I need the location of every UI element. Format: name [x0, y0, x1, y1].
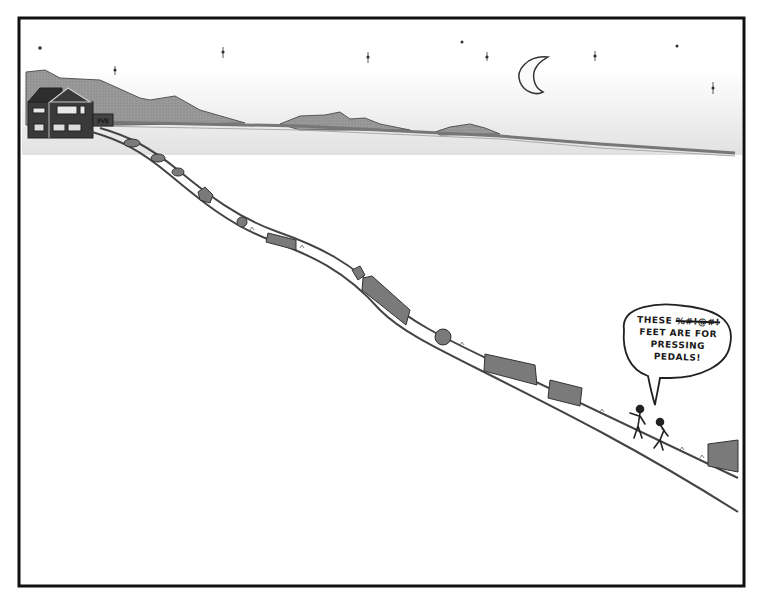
star-icon — [366, 52, 369, 63]
walking-people — [630, 406, 668, 451]
grass-edge — [130, 139, 704, 458]
star-icon — [485, 52, 488, 61]
star-icon — [38, 46, 42, 50]
bush — [172, 168, 184, 176]
bush — [124, 139, 140, 147]
star-icon — [593, 51, 596, 61]
star-icon — [461, 41, 464, 44]
bush — [237, 217, 247, 227]
bush — [362, 276, 410, 325]
censored-word: %#!@#! — [676, 316, 721, 328]
bush — [151, 154, 165, 162]
star-icon — [221, 47, 224, 58]
star-icon — [676, 45, 679, 48]
cartoon-illustration: FVE — [0, 0, 760, 602]
bubble-word-these: THESE — [637, 315, 672, 326]
bush — [548, 380, 582, 406]
bush — [484, 354, 537, 385]
bush — [435, 329, 451, 345]
speech-bubble-text: THESE %#!@#! FEET ARE FOR PRESSING PEDAL… — [621, 313, 735, 365]
bush — [708, 440, 738, 472]
house-sign: FVE — [97, 117, 109, 124]
person-2 — [654, 419, 668, 451]
bush — [266, 233, 296, 250]
bushes — [124, 139, 738, 472]
